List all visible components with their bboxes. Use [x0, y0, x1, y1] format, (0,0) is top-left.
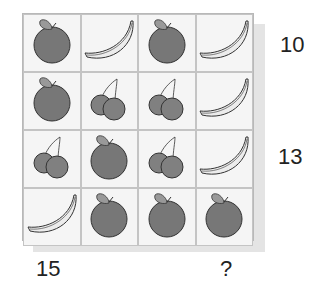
- apple-icon: [141, 15, 193, 71]
- apple-icon: [198, 189, 250, 245]
- cherries-icon: [83, 73, 135, 129]
- grid-cell: [23, 72, 81, 130]
- apple-icon: [83, 189, 135, 245]
- banana-icon: [198, 73, 250, 129]
- grid-cell: [81, 188, 139, 246]
- grid-cell: [138, 72, 196, 130]
- grid-cell: [196, 72, 254, 130]
- fruit-grid: [22, 13, 254, 241]
- apple-icon: [26, 73, 78, 129]
- banana-icon: [26, 189, 78, 245]
- apple-icon: [26, 15, 78, 71]
- grid-cell: [138, 130, 196, 188]
- apple-icon: [141, 189, 193, 245]
- grid-cell: [81, 130, 139, 188]
- col-sum-1: 15: [36, 256, 60, 282]
- grid-cell: [23, 188, 81, 246]
- grid-cell: [23, 14, 81, 72]
- banana-icon: [198, 15, 250, 71]
- col-sum-4: ?: [220, 256, 232, 282]
- grid-cell: [81, 14, 139, 72]
- grid-cell: [138, 188, 196, 246]
- grid-cell: [23, 130, 81, 188]
- cherries-icon: [141, 73, 193, 129]
- grid-cell: [138, 14, 196, 72]
- row-sum-1: 10: [280, 32, 304, 58]
- grid-cell: [81, 72, 139, 130]
- cherries-icon: [141, 131, 193, 187]
- grid-cell: [196, 188, 254, 246]
- banana-icon: [198, 131, 250, 187]
- cherries-icon: [26, 131, 78, 187]
- banana-icon: [83, 15, 135, 71]
- grid-cell: [196, 130, 254, 188]
- apple-icon: [83, 131, 135, 187]
- row-sum-3: 13: [278, 144, 302, 170]
- grid-cell: [196, 14, 254, 72]
